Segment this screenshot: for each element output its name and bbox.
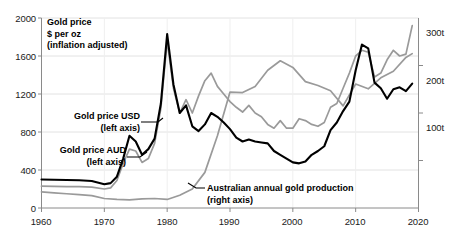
series-label-gold-price-usd: Gold price USD (left axis) bbox=[44, 111, 140, 134]
series-label-production: Australian annual gold production (right… bbox=[207, 183, 354, 206]
x-axis-label-2000: 2000 bbox=[272, 216, 312, 227]
series-label-usd-line-2: (left axis) bbox=[44, 123, 140, 135]
x-axis-label-1970: 1970 bbox=[84, 216, 124, 227]
y-axis-left-label-2000: 2000 bbox=[2, 13, 36, 24]
series-label-aud-line-1: Gold price AUD bbox=[30, 145, 126, 157]
chart-title-line-2: $ per oz bbox=[47, 29, 128, 41]
x-axis-label-1980: 1980 bbox=[147, 216, 187, 227]
series-label-prod-line-1: Australian annual gold production bbox=[207, 183, 354, 195]
x-axis-label-2010: 2010 bbox=[335, 216, 375, 227]
series-label-gold-price-aud: Gold price AUD (left axis) bbox=[30, 145, 126, 168]
series-label-prod-line-2: (right axis) bbox=[207, 195, 354, 207]
chart-title-line-1: Gold price bbox=[47, 17, 128, 29]
x-axis-label-2020: 2020 bbox=[398, 216, 438, 227]
x-axis-label-1990: 1990 bbox=[209, 216, 249, 227]
series-label-aud-line-2: (left axis) bbox=[30, 157, 126, 169]
chart-title-line-3: (inflation adjusted) bbox=[47, 40, 128, 52]
x-axis-label-1960: 1960 bbox=[21, 216, 61, 227]
y-axis-left-label-800: 800 bbox=[2, 127, 36, 138]
y-axis-left-label-1200: 1200 bbox=[2, 89, 36, 100]
y-axis-right-label-200t: 200t bbox=[426, 75, 444, 86]
series-label-usd-line-1: Gold price USD bbox=[44, 111, 140, 123]
gold-price-chart: 2000 1600 1200 800 400 0 300t 200t 100t … bbox=[0, 0, 456, 242]
y-axis-right-label-100t: 100t bbox=[426, 122, 444, 133]
y-axis-left-label-1600: 1600 bbox=[2, 51, 36, 62]
y-axis-right-label-300t: 300t bbox=[426, 27, 444, 38]
y-axis-left-label-0: 0 bbox=[2, 203, 36, 214]
chart-title-block: Gold price $ per oz (inflation adjusted) bbox=[47, 17, 128, 52]
